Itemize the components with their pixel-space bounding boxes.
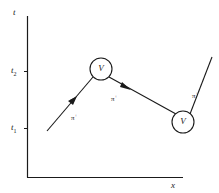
tick-label-t2-sub: 2 [14,71,17,77]
vertex-2-label: V [172,117,194,126]
vertex-1-label: V [90,64,112,73]
propagator-3-label: π+ [192,91,198,100]
tick-label-t1-sub: 1 [14,128,17,134]
tick-label-t2: t2 [11,66,17,77]
x-axis-label: x [171,181,175,190]
propagator-3-label-charge: + [196,91,199,96]
spacetime-diagram: t x t2 t1 V V π+ π+ π+ [0,0,219,193]
tick-label-t1: t1 [11,123,17,134]
y-axis-label: t [13,8,16,17]
propagator-1-label: π+ [71,113,77,122]
propagator-1-label-charge: + [75,113,78,118]
propagator-2-label: π+ [111,94,117,103]
propagator-3-overlay [0,0,219,193]
propagator-2-label-charge: + [115,94,118,99]
